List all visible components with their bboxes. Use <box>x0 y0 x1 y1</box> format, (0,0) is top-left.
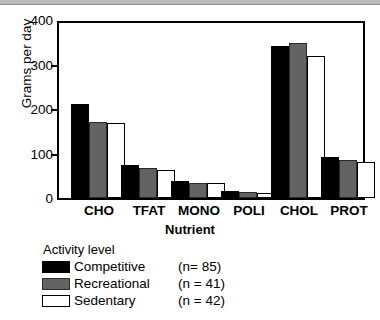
legend-n-recreational: (n = 41) <box>178 276 225 291</box>
bar-mono-recreational <box>189 183 207 198</box>
legend-n-competitive: (n= 85) <box>178 259 221 274</box>
y-tick-label-100: 100 <box>20 147 53 162</box>
y-axis-title: Grams per day <box>19 0 34 134</box>
bar-tfat-competitive <box>121 165 139 198</box>
legend-swatch-competitive-icon <box>42 261 70 273</box>
y-tick-label-0: 0 <box>20 191 53 206</box>
legend-label-competitive: Competitive <box>74 259 178 274</box>
x-tick-label-prot: PROT <box>307 203 380 218</box>
legend-item-recreational: Recreational (n = 41) <box>42 275 302 292</box>
bar-prot-sedentary <box>357 162 375 198</box>
x-axis-title: Nutrient <box>0 222 380 237</box>
plot-area <box>57 21 365 200</box>
legend-label-recreational: Recreational <box>74 276 178 291</box>
legend-swatch-recreational-icon <box>42 278 70 290</box>
bar-prot-recreational <box>339 160 357 198</box>
legend-item-sedentary: Sedentary (n = 42) <box>42 292 302 309</box>
bar-chart-figure: 400 300 200 100 0 Grams per day <box>0 0 380 320</box>
bar-mono-competitive <box>171 181 189 198</box>
legend: Activity level Competitive (n= 85) Recre… <box>42 242 302 309</box>
legend-item-competitive: Competitive (n= 85) <box>42 258 302 275</box>
bar-chol-competitive <box>271 46 289 198</box>
bar-poli-recreational <box>239 192 257 198</box>
bar-cho-competitive <box>71 104 89 198</box>
legend-title: Activity level <box>42 242 302 257</box>
bar-cho-recreational <box>89 122 107 198</box>
bar-tfat-recreational <box>139 168 157 198</box>
legend-label-sedentary: Sedentary <box>74 293 178 308</box>
legend-n-sedentary: (n = 42) <box>178 293 225 308</box>
bar-chol-recreational <box>289 43 307 198</box>
bar-poli-competitive <box>221 191 239 199</box>
legend-swatch-sedentary-icon <box>42 295 70 307</box>
bar-prot-competitive <box>321 157 339 198</box>
